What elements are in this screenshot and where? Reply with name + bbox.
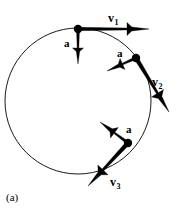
velocity-label-1: v1 xyxy=(108,12,119,27)
acceleration-label-2: a xyxy=(117,48,123,59)
velocity-label-3-subscript: 3 xyxy=(116,182,121,191)
velocity-vector-3 xyxy=(88,142,130,186)
acceleration-label-1: a xyxy=(64,38,70,49)
velocity-label-3: v3 xyxy=(110,176,121,191)
velocity-label-2-subscript: 2 xyxy=(158,82,163,91)
velocity-label-2: v2 xyxy=(152,76,163,91)
orbit-point-2 xyxy=(132,54,140,62)
circular-motion-figure: v1 v2 v3 a a a (a) xyxy=(0,0,178,211)
figure-canvas xyxy=(0,0,178,211)
acceleration-vector-1 xyxy=(73,29,84,64)
velocity-label-1-subscript: 1 xyxy=(114,18,119,27)
acceleration-label-3: a xyxy=(126,124,132,135)
orbit-point-3 xyxy=(124,139,132,147)
orbit-point-1 xyxy=(74,25,82,33)
figure-caption: (a) xyxy=(6,192,18,203)
